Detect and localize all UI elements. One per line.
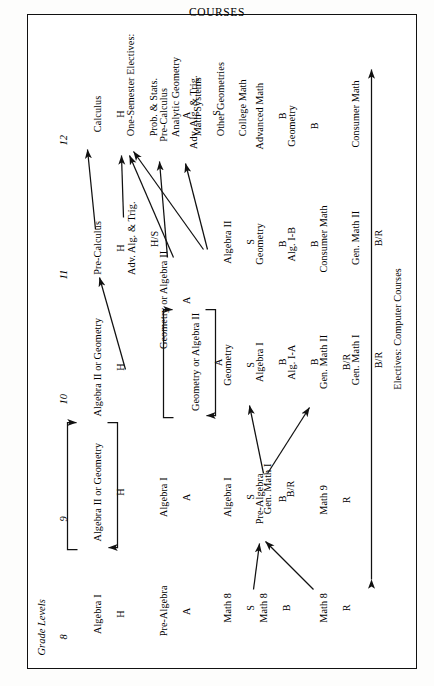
- connector-g11advalg-to-electives: [121, 155, 123, 217]
- connector-g11precalc-to-g12calculus: [87, 149, 95, 229]
- connector-g11geoalg2-to-g12precalc-a: [159, 161, 167, 257]
- connector-g11algebra2-to-electives: [133, 151, 203, 249]
- chart-rotation-wrapper: Grade Levels 8 9 10 11 12 Algebra I H Al…: [27, 14, 417, 669]
- connector-g11geoalg2-to-electives: [129, 155, 173, 257]
- connector-g8math8r-to-genmath1: [265, 541, 313, 589]
- connector-honors-g9-to-g10: [67, 422, 77, 549]
- connector-overlay: [27, 14, 417, 669]
- course-flowchart: Grade Levels 8 9 10 11 12 Algebra I H Al…: [27, 14, 417, 669]
- connector-g11algebra2-to-g12advalg-s: [185, 163, 207, 249]
- connector-g10alg2geo-to-g11precalc-h: [99, 277, 125, 369]
- connector-genmath1-to-g10genmath2-br: [267, 407, 309, 473]
- connector-accel-g10-to-g11: [163, 309, 173, 417]
- connector-honors-g10-to-g9: [107, 422, 117, 547]
- connector-genmath1-to-g10algebra1-b: [249, 405, 263, 473]
- connector-g8math8b-to-genmath1: [253, 543, 259, 589]
- connector-accel-g11-to-g10: [205, 309, 215, 415]
- scanned-page: COURSES Grade Levels 8 9 10 11 12 Algebr…: [0, 0, 434, 686]
